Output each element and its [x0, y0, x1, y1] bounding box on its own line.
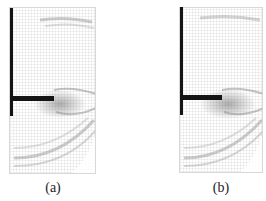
panel-b: (b): [0, 0, 266, 201]
vector-field-b: [179, 7, 263, 173]
horizontal-plate-b: [182, 95, 222, 100]
flow-pattern-b: [180, 8, 263, 173]
panel-label-b: (b): [206, 180, 236, 196]
